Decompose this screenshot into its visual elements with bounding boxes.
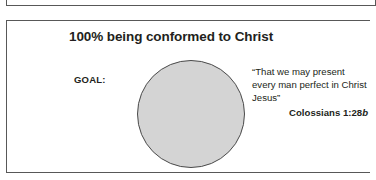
scripture-quote-text: “That we may present every man perfect i… xyxy=(252,65,370,105)
scripture-quote-block: “That we may present every man perfect i… xyxy=(252,65,370,119)
goal-diagram-panel: 100% being conformed to Christ GOAL: “Th… xyxy=(6,20,370,173)
goal-circle-shape xyxy=(137,60,245,168)
scripture-citation: Colossians 1:28b xyxy=(252,106,370,119)
page-title: 100% being conformed to Christ xyxy=(69,29,273,44)
scripture-citation-book: Colossians 1:28 xyxy=(289,107,362,118)
scripture-citation-suffix: b xyxy=(362,107,368,118)
goal-label: GOAL: xyxy=(74,74,106,85)
top-partial-panel xyxy=(6,0,376,6)
